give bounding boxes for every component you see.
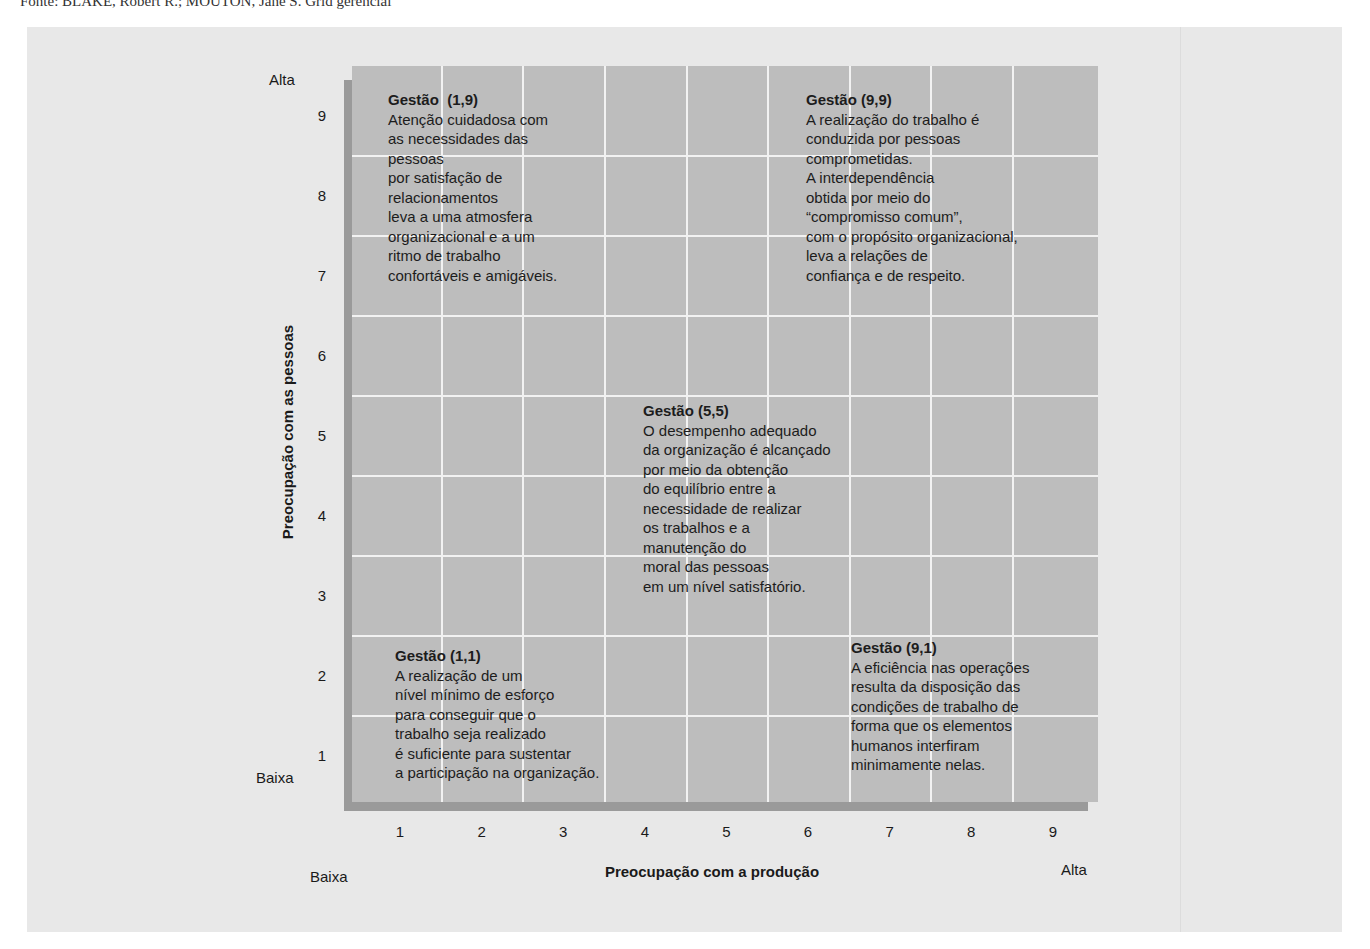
style-description-line: por meio da obtenção (643, 460, 831, 480)
style-description-line: moral das pessoas (643, 557, 831, 577)
grid-line-horizontal (352, 315, 1098, 317)
source-caption: Fonte: BLAKE, Robert R.; MOUTON, Jane S.… (20, 0, 391, 10)
y-tick-label: 2 (318, 667, 326, 684)
x-tick-label: 7 (885, 823, 893, 840)
style-description-line: as necessidades das (388, 129, 557, 149)
style-description-line: para conseguir que o (395, 705, 599, 725)
style-description-line: confortáveis e amigáveis. (388, 266, 557, 286)
style-description-line: A realização do trabalho é (806, 110, 1018, 130)
y-tick-label: 3 (318, 587, 326, 604)
x-tick-label: 3 (559, 823, 567, 840)
style-description-line: a participação na organização. (395, 763, 599, 783)
x-tick-label: 1 (396, 823, 404, 840)
style-description-line: organizacional e a um (388, 227, 557, 247)
y-axis-title: Preocupação com as pessoas (279, 325, 296, 539)
style-description-line: “compromisso comum”, (806, 207, 1018, 227)
style-description-line: por satisfação de (388, 168, 557, 188)
style-description-line: leva a relações de (806, 246, 1018, 266)
style-description-line: O desempenho adequado (643, 421, 831, 441)
style-description-line: obtida por meio do (806, 188, 1018, 208)
style-description-line: do equilíbrio entre a (643, 479, 831, 499)
y-tick-label: 5 (318, 427, 326, 444)
style-box-1-1: Gestão (1,1)A realização de umnível míni… (395, 646, 599, 783)
y-tick-label: 9 (318, 107, 326, 124)
y-tick-label: 1 (318, 747, 326, 764)
style-description-line: os trabalhos e a (643, 518, 831, 538)
style-description-line: nível mínimo de esforço (395, 685, 599, 705)
y-tick-label: 6 (318, 347, 326, 364)
style-description-line: A interdependência (806, 168, 1018, 188)
style-title: Gestão (9,9) (806, 90, 1018, 110)
style-title: Gestão (1,9) (388, 90, 557, 110)
x-tick-label: 4 (641, 823, 649, 840)
y-tick-label: 7 (318, 267, 326, 284)
style-description-line: é suficiente para sustentar (395, 744, 599, 764)
style-title: Gestão (1,1) (395, 646, 599, 666)
style-description-line: trabalho seja realizado (395, 724, 599, 744)
style-description-line: necessidade de realizar (643, 499, 831, 519)
style-box-9-9: Gestão (9,9)A realização do trabalho éco… (806, 90, 1018, 285)
style-description-line: com o propósito organizacional, (806, 227, 1018, 247)
style-description-line: em um nível satisfatório. (643, 577, 831, 597)
style-description-line: confiança e de respeito. (806, 266, 1018, 286)
page-fold-line (1180, 27, 1181, 932)
style-description-line: leva a uma atmosfera (388, 207, 557, 227)
x-tick-label: 2 (477, 823, 485, 840)
x-tick-label: 6 (804, 823, 812, 840)
y-tick-label: 4 (318, 507, 326, 524)
x-tick-label: 9 (1049, 823, 1057, 840)
grid-line-horizontal (352, 395, 1098, 397)
y-high-label: Alta (269, 71, 295, 88)
style-description-line: condições de trabalho de (851, 697, 1029, 717)
style-description-line: resulta da disposição das (851, 677, 1029, 697)
grid-line-horizontal (352, 635, 1098, 637)
style-description-line: comprometidas. (806, 149, 1018, 169)
x-high-label: Alta (1061, 861, 1087, 878)
style-box-9-1: Gestão (9,1)A eficiência nas operaçõesre… (851, 638, 1029, 775)
style-description-line: minimamente nelas. (851, 755, 1029, 775)
style-description-line: Atenção cuidadosa com (388, 110, 557, 130)
x-tick-label: 5 (722, 823, 730, 840)
style-description-line: pessoas (388, 149, 557, 169)
style-description-line: conduzida por pessoas (806, 129, 1018, 149)
style-title: Gestão (9,1) (851, 638, 1029, 658)
style-title: Gestão (5,5) (643, 401, 831, 421)
x-low-label: Baixa (310, 868, 348, 885)
grid-line-vertical (604, 66, 606, 802)
style-description-line: ritmo de trabalho (388, 246, 557, 266)
style-description-line: A eficiência nas operações (851, 658, 1029, 678)
style-description-line: relacionamentos (388, 188, 557, 208)
y-low-label: Baixa (256, 769, 294, 786)
style-description-line: forma que os elementos (851, 716, 1029, 736)
x-tick-label: 8 (967, 823, 975, 840)
style-description-line: da organização é alcançado (643, 440, 831, 460)
y-tick-label: 8 (318, 187, 326, 204)
style-box-1-9: Gestão (1,9)Atenção cuidadosa comas nece… (388, 90, 557, 285)
style-description-line: A realização de um (395, 666, 599, 686)
style-description-line: humanos interfiram (851, 736, 1029, 756)
style-description-line: manutenção do (643, 538, 831, 558)
x-axis-title: Preocupação com a produção (605, 863, 819, 880)
style-box-5-5: Gestão (5,5)O desempenho adequadoda orga… (643, 401, 831, 596)
